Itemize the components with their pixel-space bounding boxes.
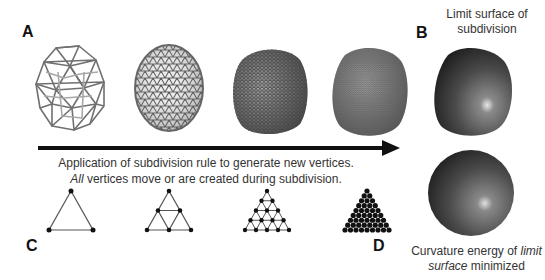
triangle-level-1 [144, 187, 194, 233]
curvature-caption-line-1: Curvature energy of limit [408, 244, 545, 259]
caption-line-2: subdivision [428, 22, 545, 37]
panel-label-b: B [416, 24, 428, 42]
coarse-wireframe-mesh [34, 42, 108, 134]
arrow-line-1: Application of subdivision rule to gener… [38, 155, 374, 171]
curvature-caption-line-2: surface minimized [408, 259, 545, 274]
limit-surface [430, 45, 514, 137]
triangle-level-3 [342, 187, 392, 233]
subdivision-arrow [38, 140, 400, 156]
triangle-level-2 [242, 187, 292, 233]
panel-label-c: C [26, 237, 38, 255]
minimized-sphere [426, 148, 516, 238]
level-1-wireframe-mesh [133, 43, 205, 133]
caption-em-2: surface [428, 259, 467, 273]
arrow-line-2-emphasis: All [70, 172, 83, 186]
caption-post: minimized [468, 259, 525, 273]
limit-surface-caption: Limit surface of subdivision [428, 7, 545, 37]
arrow-description: Application of subdivision rule to gener… [38, 155, 374, 187]
caption-pre: Curvature energy of [411, 244, 520, 258]
level-2-mesh [230, 46, 310, 136]
arrow-line-2-rest: vertices move or are created during subd… [84, 172, 342, 186]
arrow-line-2: All vertices move or are created during … [38, 171, 374, 187]
level-3-mesh [329, 45, 409, 139]
caption-em-1: limit [521, 244, 542, 258]
caption-line-1: Limit surface of [428, 7, 545, 22]
panel-label-d: D [373, 237, 385, 255]
curvature-caption: Curvature energy of limit surface minimi… [408, 244, 545, 274]
triangle-level-0 [46, 187, 96, 233]
panel-label-a: A [22, 23, 34, 41]
